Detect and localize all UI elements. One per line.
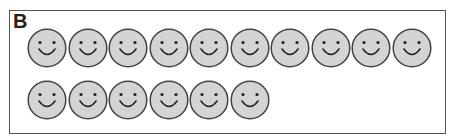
smiley-face-icon: [189, 28, 229, 68]
smiley-face-icon: [270, 28, 310, 68]
face-row-1: [27, 28, 432, 68]
smiley-face-icon: [189, 80, 229, 120]
smiley-face-icon: [68, 28, 108, 68]
smiley-face-icon: [311, 28, 351, 68]
smiley-face-icon: [68, 80, 108, 120]
smiley-face-icon: [230, 80, 270, 120]
smiley-face-icon: [108, 28, 148, 68]
smiley-face-icon: [392, 28, 432, 68]
smiley-face-icon: [27, 28, 67, 68]
smiley-face-icon: [351, 28, 391, 68]
smiley-face-icon: [108, 80, 148, 120]
smiley-face-icon: [149, 28, 189, 68]
smiley-face-icon: [230, 28, 270, 68]
smiley-face-icon: [149, 80, 189, 120]
face-row-2: [27, 80, 270, 120]
smiley-face-icon: [27, 80, 67, 120]
panel-label: B: [13, 9, 27, 33]
